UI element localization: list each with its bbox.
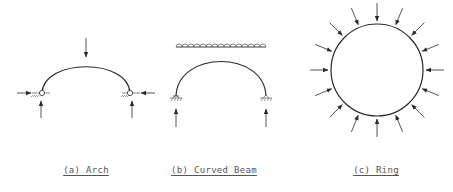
curved-beam-curve xyxy=(176,62,266,97)
label-curved-beam: (b) Curved Beam xyxy=(171,165,257,175)
label-arch: (a) Arch xyxy=(63,165,109,175)
arch-left-hinge-icon xyxy=(31,90,50,97)
arch-curve xyxy=(42,67,130,93)
structures-diagram xyxy=(0,0,453,192)
ring-radial-pressure-arrows-icon xyxy=(310,3,444,137)
arch-panel xyxy=(17,38,155,118)
curved-beam-left-support-icon xyxy=(170,95,182,101)
label-ring: (c) Ring xyxy=(353,165,399,175)
uniform-load-icon xyxy=(176,44,266,47)
arch-right-hinge-icon xyxy=(121,90,140,97)
ring-circle xyxy=(331,24,423,116)
curved-beam-panel xyxy=(170,44,272,127)
ring-panel xyxy=(310,3,444,137)
